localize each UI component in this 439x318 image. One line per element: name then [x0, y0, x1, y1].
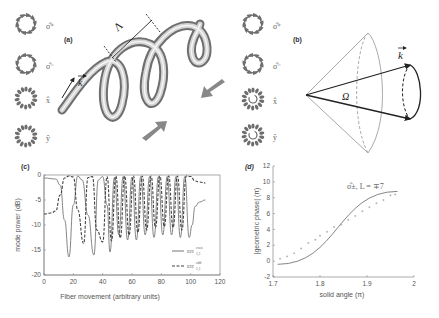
k-trajectory-hidden [403, 65, 411, 119]
data-point-marker [361, 210, 363, 212]
mode-label-sigma-plus: σ̂⁺ [46, 22, 54, 31]
y-tick-label: -2 [264, 273, 270, 280]
data-point-marker [314, 239, 316, 241]
y-tick-label: -5 [35, 196, 41, 203]
k-trajectory [410, 65, 421, 119]
figure: σ̂⁺ σ̂⁻ x̂ ŷ (a) Λ k [0, 0, 439, 318]
mode-label-x-b: x̂ [273, 97, 277, 106]
mode-label-sigma-minus: σ̂⁻ [46, 62, 54, 71]
x-tick-label: 100 [185, 278, 196, 285]
mode-pattern-sigma-minus-icon [14, 52, 39, 77]
chart-d: (d) 1.71.81.92-2024681012 |geometric pha… [245, 162, 416, 299]
d-xlabel: solid angle (π) [320, 291, 365, 299]
data-point-marker [307, 242, 309, 244]
x-tick-label: 2 [412, 280, 416, 287]
panel-label-b: (b) [293, 36, 302, 44]
mode-label-y: ŷ [46, 134, 50, 143]
c-legend-even-sub: 1,1 [196, 252, 201, 257]
c-legend: EH even 1,1 EH odd 1,1 [172, 246, 203, 272]
data-point-marker [333, 226, 335, 228]
y-tick-label: 10 [263, 178, 271, 185]
solid-angle-label: Ω [342, 91, 349, 102]
x-tick-label: 40 [99, 278, 107, 285]
x-tick-label: 120 [215, 278, 226, 285]
k-vector-bottom-arrow [306, 95, 410, 119]
x-tick-label: 1.8 [315, 280, 324, 287]
panel-label-d: (d) [245, 163, 255, 171]
k-vector-label: k [78, 77, 83, 88]
mode-pattern-sigma-plus-b-icon [241, 12, 266, 37]
y-tick-label: 4 [266, 226, 270, 233]
panel-b: σ̂⁺ σ̂⁻ x̂ ŷ (b) k Ω [241, 12, 421, 153]
mode-pattern-x-b-icon [241, 87, 264, 110]
c-legend-odd-sup: odd [196, 261, 202, 265]
y-tick-label: -15 [32, 246, 42, 253]
data-point-marker [347, 219, 349, 221]
c-ylabel: mode power (dB) [14, 198, 22, 252]
data-point-marker [286, 255, 288, 257]
data-point-marker [375, 202, 377, 204]
data-point-marker [279, 258, 281, 260]
x-tick-label: 20 [70, 278, 78, 285]
d-annotation: σ̂±, L = ∓7 [347, 182, 384, 191]
y-tick-label: 2 [266, 241, 270, 248]
x-tick-label: 1.9 [362, 280, 371, 287]
y-tick-label: 12 [263, 162, 271, 169]
c-legend-odd-sub: 1,1 [196, 267, 201, 272]
c-legend-even-main: EH [187, 249, 194, 254]
data-point-marker [326, 231, 328, 233]
x-tick-label: 1.7 [268, 280, 277, 287]
x-tick-label: 80 [158, 278, 166, 285]
y-tick-label: 0 [37, 171, 41, 178]
data-point-marker [354, 215, 356, 217]
data-point-marker [368, 206, 370, 208]
mode-pattern-x-icon [14, 86, 37, 109]
chart-c: (c) 0204060801001200-5-10-15-20 mode pow… [14, 163, 226, 301]
data-point-marker [293, 252, 295, 254]
force-arrow-upper-icon [201, 79, 225, 98]
k-vector-label-b: k [398, 49, 404, 61]
y-tick-label: -10 [32, 221, 42, 228]
mode-pattern-y-icon [14, 124, 37, 147]
mode-pattern-sigma-plus-icon [14, 12, 39, 37]
y-tick-label: -20 [32, 271, 42, 278]
x-tick-label: 0 [42, 278, 46, 285]
force-arrow-lower-icon [142, 121, 167, 141]
y-tick-label: 8 [266, 194, 270, 201]
panel-a: σ̂⁺ σ̂⁻ x̂ ŷ (a) Λ k [14, 12, 225, 148]
pitch-symbol: Λ [111, 19, 125, 33]
mode-label-sigma-minus-b: σ̂⁻ [273, 62, 281, 71]
c-legend-odd-main: EH [187, 264, 194, 269]
c-xlabel: Fiber movement (arbitrary units) [60, 293, 160, 301]
panel-label-a: (a) [64, 36, 73, 44]
data-point-marker [394, 194, 396, 196]
data-point-marker [300, 247, 302, 249]
data-point-marker [319, 235, 321, 237]
d-ylabel: |geometric phase| (π) [253, 188, 261, 255]
mode-pattern-y-b-icon [241, 123, 264, 146]
x-tick-label: 60 [128, 278, 136, 285]
mode-pattern-sigma-minus-b-icon [241, 52, 266, 77]
data-point-marker [390, 194, 392, 196]
plot-frame [44, 175, 220, 275]
data-point-marker [382, 199, 384, 201]
mode-label-sigma-plus-b: σ̂⁺ [273, 22, 281, 31]
mode-label-y-b: ŷ [273, 133, 277, 142]
y-tick-label: 6 [266, 210, 270, 217]
series-line-0 [278, 191, 398, 264]
helical-fiber [62, 24, 207, 117]
y-tick-label: 0 [266, 257, 270, 264]
panel-label-c: (c) [21, 163, 30, 171]
mode-label-x: x̂ [46, 96, 50, 105]
c-legend-even-sup: even [196, 246, 203, 250]
series-line-0 [44, 176, 205, 257]
